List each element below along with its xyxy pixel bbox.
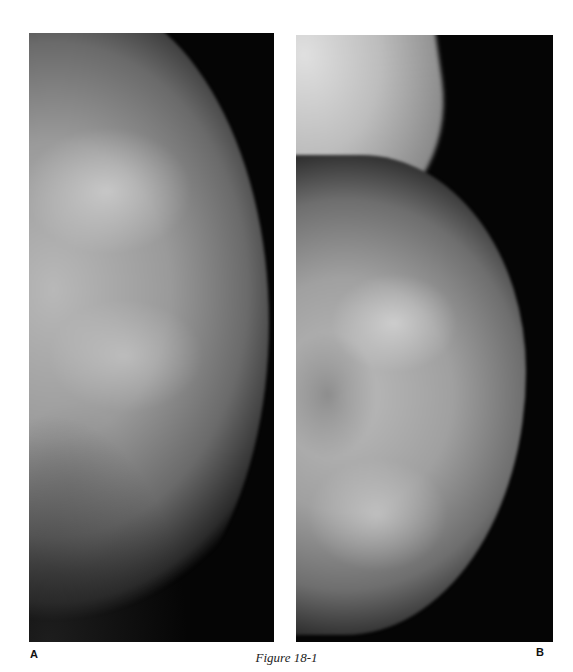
figure-caption: Figure 18-1 <box>0 650 573 666</box>
mammogram-panel-a <box>29 33 274 642</box>
tissue-shadow <box>29 413 189 642</box>
breast-tissue-image <box>296 155 526 635</box>
mammogram-panel-b <box>296 35 553 642</box>
